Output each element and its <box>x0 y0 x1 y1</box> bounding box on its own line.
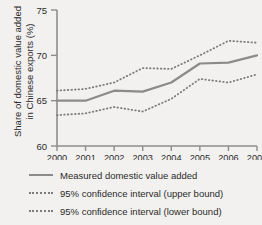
legend-label-upper-bound: 95% confidence interval (upper bound) <box>60 188 223 199</box>
x-tick-label-2001: 2001 <box>75 153 95 160</box>
x-tick-label-2005: 2005 <box>190 153 210 160</box>
y-tick-label-75: 75 <box>36 5 47 16</box>
data-series-layer <box>57 41 257 115</box>
chart-container: Share of domestic value added in Chinese… <box>0 0 262 225</box>
legend-item-lower-bound: 95% confidence interval (lower bound) <box>28 202 262 220</box>
legend-item-upper-bound: 95% confidence interval (upper bound) <box>28 184 262 202</box>
series-line-2 <box>57 74 257 115</box>
x-tick-label-2004: 2004 <box>161 153 181 160</box>
x-tick-label-2003: 2003 <box>132 153 152 160</box>
legend-label-measured: Measured domestic value added <box>60 170 197 181</box>
y-tick-labels: 60657075 <box>36 5 47 152</box>
legend-swatch-dotted-upper-icon <box>28 187 54 199</box>
x-tick-label-2000: 2000 <box>47 153 67 160</box>
legend-swatch-dotted-lower-icon <box>28 205 54 217</box>
legend-label-lower-bound: 95% confidence interval (lower bound) <box>60 206 222 217</box>
x-tick-label-2007: 2007 <box>247 153 262 160</box>
x-tick-label-2006: 2006 <box>218 153 238 160</box>
chart-legend: Measured domestic value added 95% confid… <box>28 166 262 220</box>
y-tick-label-65: 65 <box>36 95 47 106</box>
y-tick-label-70: 70 <box>36 50 47 61</box>
x-tick-labels: 20002001200220032004200520062007 <box>47 153 262 160</box>
legend-swatch-solid-icon <box>28 169 54 181</box>
x-tick-label-2002: 2002 <box>104 153 124 160</box>
y-tick-label-60: 60 <box>36 141 47 152</box>
plot-area: 60657075 2000200120022003200420052006200… <box>0 0 262 160</box>
legend-item-measured: Measured domestic value added <box>28 166 262 184</box>
y-tick-marks <box>51 10 57 146</box>
series-line-0 <box>57 55 257 100</box>
